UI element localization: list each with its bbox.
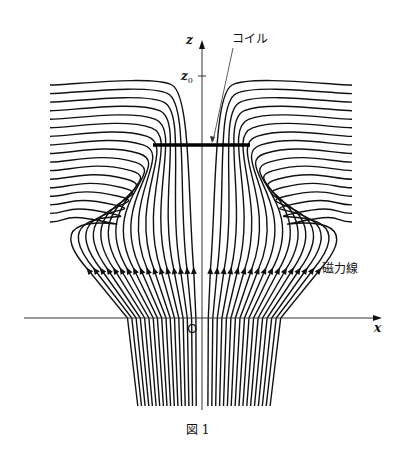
arrowhead-icon [227, 267, 233, 274]
arrowhead-icon [207, 267, 213, 274]
field-line [50, 123, 178, 406]
axes [24, 40, 382, 410]
z0-subscript: 0 [188, 76, 193, 85]
arrowhead-icon [153, 267, 159, 275]
arrowhead-icon [221, 267, 227, 274]
field-diagram [0, 0, 405, 456]
arrowhead-icon [294, 268, 300, 275]
field-line [50, 89, 193, 406]
field-direction-arrows [86, 267, 321, 275]
field-line [262, 200, 352, 406]
arrowhead-icon [241, 267, 247, 275]
arrowhead-icon [247, 267, 253, 275]
arrowhead-icon [106, 268, 112, 275]
field-line [270, 218, 352, 406]
magnetic-field-lines [50, 81, 352, 406]
arrowhead-icon [146, 267, 152, 275]
z-axis-label: z [186, 34, 193, 46]
arrowhead-icon [301, 268, 308, 275]
arrowhead-icon [100, 268, 107, 275]
coil-label: コイル [232, 33, 268, 45]
arrowhead-icon [159, 267, 165, 275]
arrowhead-icon [191, 267, 197, 274]
x-axis-label: x [374, 322, 381, 334]
arrowhead-icon [172, 267, 178, 274]
field-line [258, 192, 352, 406]
figure-caption: 図 1 [186, 424, 209, 436]
arrowhead-icon [178, 267, 184, 274]
arrowhead-icon [254, 267, 260, 275]
z0-label: z0 [181, 70, 193, 85]
coil-leader-arrow-icon [210, 136, 215, 143]
z-axis-arrow-icon [199, 40, 205, 49]
field-line [50, 132, 174, 406]
z0-symbol: z [181, 69, 188, 83]
arrowhead-icon [288, 267, 294, 275]
arrowhead-icon [308, 268, 315, 275]
field-line [255, 183, 353, 406]
origin-label: O [187, 322, 197, 335]
field-lines-label: 磁力線 [322, 263, 358, 275]
